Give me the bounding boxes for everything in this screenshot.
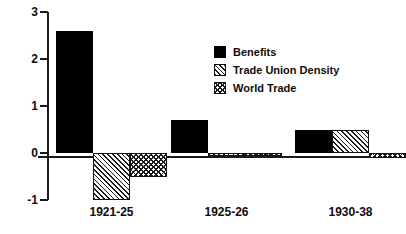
- zero-baseline: [38, 156, 392, 158]
- bar: [245, 153, 282, 156]
- y-axis-tick-label-wrap: 0: [0, 147, 38, 159]
- bar: [130, 153, 167, 177]
- bar: [295, 130, 332, 154]
- legend-label: World Trade: [233, 82, 296, 94]
- y-axis-tick: [40, 58, 48, 60]
- bar: [171, 120, 208, 153]
- y-axis-tick: [40, 11, 48, 13]
- solid-black-swatch-icon: [214, 46, 226, 58]
- y-axis-tick-label-wrap: 1: [0, 100, 38, 112]
- y-axis-tick-label-wrap: 3: [0, 6, 38, 18]
- x-axis-category-label: 1921-25: [56, 206, 167, 219]
- bar: [332, 130, 369, 154]
- y-axis-tick: [40, 105, 48, 107]
- x-axis-category-label: 1930-38: [295, 206, 406, 219]
- y-axis-tick-label-wrap: -1: [0, 194, 38, 206]
- y-axis-tick-label: 3: [4, 6, 38, 18]
- y-axis-tick-label: 0: [4, 147, 38, 159]
- legend-label: Benefits: [233, 46, 276, 58]
- legend-label: Trade Union Density: [233, 64, 339, 76]
- legend-item-benefits: Benefits: [214, 44, 339, 60]
- y-axis-tick: [40, 199, 48, 201]
- y-axis-tick-label: 1: [4, 100, 38, 112]
- legend-item-world-trade: World Trade: [214, 80, 339, 96]
- y-axis-tick-label-wrap: 2: [0, 53, 38, 65]
- x-axis-category-label: 1925-26: [171, 206, 282, 219]
- bar: [93, 153, 130, 200]
- legend-item-trade-union-density: Trade Union Density: [214, 62, 339, 78]
- chart-legend: Benefits Trade Union Density World Trade: [214, 44, 339, 98]
- y-axis-tick-label: 2: [4, 53, 38, 65]
- y-axis-tick: [40, 152, 48, 154]
- y-axis-tick-label: -1: [4, 194, 38, 206]
- cross-hatch-swatch-icon: [214, 82, 226, 94]
- bar: [56, 31, 93, 153]
- bar: [208, 153, 245, 156]
- bar: [369, 153, 406, 158]
- diagonal-hatch-swatch-icon: [214, 64, 226, 76]
